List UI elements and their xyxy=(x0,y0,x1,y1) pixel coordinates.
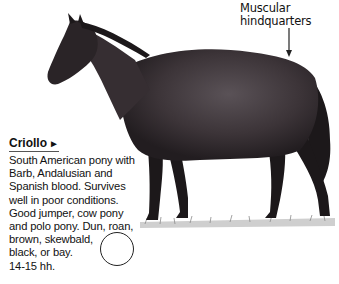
breed-name: Criollo xyxy=(9,136,47,150)
callout-line-2: hindquarters xyxy=(240,15,311,28)
grass xyxy=(140,215,335,228)
description-line: and polo pony. Dun, roan, xyxy=(9,220,149,233)
checkbox-circle[interactable] xyxy=(100,232,134,266)
description-line: Barb, Andalusian and xyxy=(9,167,149,180)
description-line: South American pony with xyxy=(9,154,149,167)
arrow-right-icon: ► xyxy=(49,138,59,149)
description-line: Spanish blood. Survives xyxy=(9,180,149,193)
description-line: Good jumper, cow pony xyxy=(9,207,149,220)
callout-label: Muscular hindquarters xyxy=(240,2,311,28)
description-line: well in poor conditions. xyxy=(9,194,149,207)
breed-title: Criollo► xyxy=(9,136,59,152)
